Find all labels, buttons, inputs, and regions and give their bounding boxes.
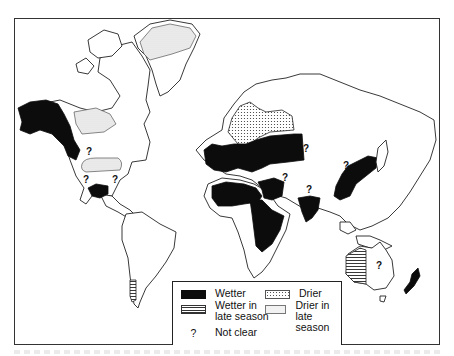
not-clear-marker: ? [376, 260, 382, 271]
not-clear-marker: ? [86, 146, 92, 157]
light-stipple-swatch [265, 305, 286, 314]
drier-swatch [265, 290, 290, 299]
tasmania [380, 296, 386, 302]
legend-label: Wetter [215, 288, 246, 299]
not-clear-marker: ? [282, 172, 288, 183]
legend-item-wetter-late: Wetter in late season [181, 300, 269, 322]
chile-wetter-late [130, 280, 136, 302]
india-wetter [298, 196, 320, 222]
legend-item-not-clear: ? Not clear [181, 327, 257, 339]
legend-label-line2: late season [295, 311, 341, 333]
wetter-swatch [181, 290, 206, 299]
horizontal-stripes-swatch [181, 305, 206, 314]
legend-item-drier: Drier [265, 288, 322, 299]
legend-item-drier-late: Drier in late season [265, 300, 341, 333]
not-clear-marker: ? [83, 174, 89, 185]
legend-label: Wetter in late season [215, 300, 269, 322]
legend-item-wetter: Wetter [181, 288, 246, 299]
legend-label: Drier in late season [295, 300, 341, 333]
not-clear-marker: ? [303, 143, 309, 154]
legend: Wetter Drier Wetter in late season Drier… [172, 281, 342, 345]
legend-label-line2: late season [215, 311, 269, 322]
new-zealand-wetter [404, 268, 420, 294]
us-midwest-drier-late [82, 158, 122, 172]
not-clear-marker: ? [306, 184, 312, 195]
not-clear-marker: ? [343, 160, 349, 171]
legend-label: Drier [299, 288, 322, 299]
not-clear-marker: ? [112, 174, 118, 185]
legend-label: Not clear [215, 327, 257, 338]
question-mark-icon: ? [181, 327, 206, 339]
caption-bleed-through [14, 350, 440, 354]
